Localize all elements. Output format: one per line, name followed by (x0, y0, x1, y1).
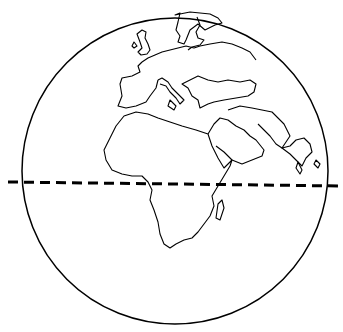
middle-east-outline (208, 106, 290, 164)
africa-outline (104, 112, 232, 248)
globe-svg (0, 0, 343, 332)
equator-line (8, 182, 343, 186)
india-outline (282, 138, 320, 174)
globe-diagram (0, 0, 343, 332)
europe-outline (118, 12, 256, 110)
globe-outline (22, 18, 328, 324)
